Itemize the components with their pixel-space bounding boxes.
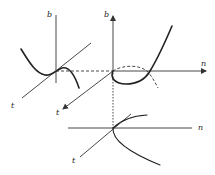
mid-solid-curve <box>112 26 172 84</box>
bot-lower-branch <box>113 128 160 165</box>
left-panel: b t <box>11 10 91 110</box>
left-t-label: t <box>11 101 15 110</box>
bottom-panel: n t <box>68 114 203 165</box>
left-b-label: b <box>47 10 52 19</box>
middle-panel: b n t <box>56 10 206 117</box>
bot-upper-branch <box>113 115 147 128</box>
mid-t-axis <box>63 71 113 109</box>
mid-b-label: b <box>104 10 109 19</box>
mid-t-label: t <box>56 108 60 117</box>
left-cubic-curve <box>21 49 79 88</box>
diagram-canvas: b t b n t n t <box>0 0 215 175</box>
bot-t-label: t <box>72 156 76 165</box>
bot-n-label: n <box>198 123 203 132</box>
mid-n-label: n <box>201 59 206 68</box>
